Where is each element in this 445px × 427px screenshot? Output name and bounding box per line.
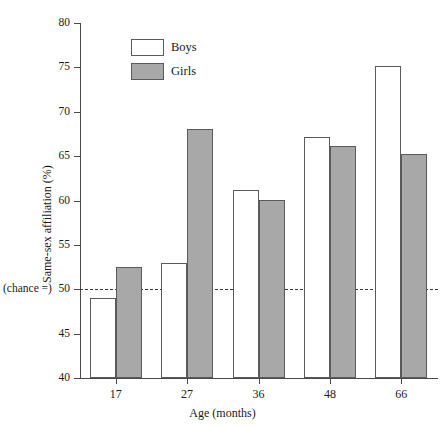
x-tick-label-17: 17 bbox=[96, 387, 136, 402]
y-tick-label-45: 45 bbox=[44, 328, 70, 339]
y-tick-label-75: 75 bbox=[44, 61, 70, 72]
y-tick-label-70: 70 bbox=[44, 106, 70, 117]
legend-label-girls: Girls bbox=[171, 64, 196, 79]
x-tick-17 bbox=[116, 378, 117, 384]
x-tick-27 bbox=[187, 378, 188, 384]
bar-girls-36 bbox=[259, 200, 285, 378]
gray-square-icon bbox=[131, 63, 164, 80]
x-axis-title: Age (months) bbox=[0, 406, 445, 421]
y-tick-value: 45 bbox=[46, 328, 70, 339]
bar-boys-17 bbox=[90, 298, 116, 378]
bar-girls-17 bbox=[116, 267, 142, 378]
chance-annotation-label: (chance =) bbox=[3, 282, 52, 294]
x-tick-48 bbox=[330, 378, 331, 384]
y-tick-value: 65 bbox=[46, 150, 70, 161]
y-tick-label-65: 65 bbox=[44, 150, 70, 161]
legend-label-boys: Boys bbox=[171, 40, 197, 55]
x-tick-label-27: 27 bbox=[167, 387, 207, 402]
y-tick-label-80: 80 bbox=[44, 17, 70, 28]
y-tick-value: 40 bbox=[46, 372, 70, 383]
y-tick-value: 80 bbox=[46, 17, 70, 28]
bar-girls-27 bbox=[187, 129, 213, 378]
y-axis-title: Same-sex affiliation (%) bbox=[40, 165, 55, 283]
bar-girls-48 bbox=[330, 146, 356, 378]
y-tick-40 bbox=[74, 378, 80, 379]
x-tick-label-66: 66 bbox=[381, 387, 421, 402]
x-tick-66 bbox=[401, 378, 402, 384]
x-tick-label-36: 36 bbox=[239, 387, 279, 402]
bar-chart: 404550556065707580 (chance =) 1727364866… bbox=[0, 0, 445, 427]
x-tick-label-48: 48 bbox=[310, 387, 350, 402]
x-tick-36 bbox=[259, 378, 260, 384]
y-tick-value: 70 bbox=[46, 106, 70, 117]
bar-girls-66 bbox=[401, 154, 427, 378]
legend-item-boys: Boys bbox=[131, 38, 197, 56]
y-tick-value: 75 bbox=[46, 61, 70, 72]
legend-item-girls: Girls bbox=[131, 62, 197, 80]
legend: Boys Girls bbox=[131, 38, 197, 86]
bar-boys-48 bbox=[304, 137, 330, 378]
y-tick-label-40: 40 bbox=[44, 372, 70, 383]
bar-boys-36 bbox=[233, 190, 259, 378]
bar-boys-27 bbox=[161, 263, 187, 378]
white-square-icon bbox=[131, 39, 164, 56]
bar-boys-66 bbox=[375, 66, 401, 378]
